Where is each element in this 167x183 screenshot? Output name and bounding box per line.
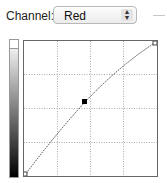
channel-value: Red bbox=[64, 9, 86, 23]
curve-control-point[interactable] bbox=[82, 99, 87, 104]
white-point-handle bbox=[153, 41, 157, 45]
grid-lines bbox=[24, 41, 157, 176]
divider bbox=[153, 15, 165, 16]
black-point-handle bbox=[24, 172, 27, 176]
white-point-swatch bbox=[9, 39, 19, 49]
channel-select[interactable]: Red ▲▼ bbox=[53, 6, 137, 24]
channel-label: Channel: bbox=[6, 9, 54, 23]
curve-graph[interactable] bbox=[23, 40, 158, 177]
output-gradient-bar bbox=[9, 39, 19, 178]
up-down-arrows-icon: ▲▼ bbox=[121, 9, 133, 21]
